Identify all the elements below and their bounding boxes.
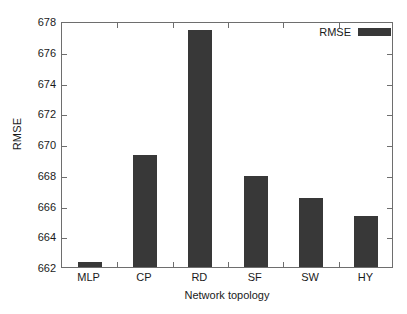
bar-mlp [78,262,102,267]
legend-swatch-rmse [358,28,391,36]
x-axis-tick-mark [173,262,174,267]
bar-sf [244,176,268,267]
y-axis-tick-mark [387,238,392,239]
y-axis-tick-mark [62,177,67,178]
y-axis-tick-mark [387,54,392,55]
y-axis-tick-label: 662 [4,262,56,274]
x-axis-tick-mark [228,23,229,28]
y-axis-tick-mark [62,208,67,209]
bar-rd [188,30,212,267]
plot-area [61,22,393,268]
bar-sw [299,198,323,267]
legend-label-rmse: RMSE [319,26,351,38]
x-axis-tick-mark [283,23,284,28]
x-axis-tick-mark [117,23,118,28]
x-axis-tick-mark [283,262,284,267]
x-axis-tick-label-sw: SW [301,271,319,283]
y-axis-tick-label: 672 [4,108,56,120]
x-axis-tick-label-sf: SF [248,271,262,283]
x-axis-tick-label-hy: HY [358,271,373,283]
y-axis-tick-mark [387,208,392,209]
chart-legend: RMSE [319,26,391,38]
x-axis-tick-mark [339,262,340,267]
bar-hy [354,216,378,267]
y-axis-tick-mark [387,177,392,178]
y-axis-tick-mark [62,85,67,86]
y-axis-tick-mark [62,115,67,116]
x-axis-tick-label-mlp: MLP [77,271,100,283]
y-axis-tick-mark [62,54,67,55]
y-axis-title: RMSE [8,0,26,268]
bar-cp [133,155,157,267]
y-axis-tick-label: 678 [4,16,56,28]
y-axis-tick-label: 664 [4,231,56,243]
y-axis-tick-label: 670 [4,139,56,151]
x-axis-tick-mark [228,262,229,267]
y-axis-tick-label: 668 [4,170,56,182]
y-axis-tick-label: 674 [4,78,56,90]
y-axis-tick-label: 676 [4,47,56,59]
x-axis-title: Network topology [61,289,393,301]
y-axis-tick-mark [387,146,392,147]
x-axis-tick-mark [117,262,118,267]
y-axis-tick-mark [62,146,67,147]
x-axis-tick-label-cp: CP [136,271,151,283]
y-axis-tick-label: 666 [4,201,56,213]
y-axis-tick-mark [62,238,67,239]
y-axis-tick-mark [387,85,392,86]
x-axis-tick-mark [173,23,174,28]
x-axis-tick-label-rd: RD [191,271,207,283]
y-axis-tick-mark [387,115,392,116]
bar-chart-figure: RMSE Network topology RMSE 6626646666686… [0,0,407,314]
